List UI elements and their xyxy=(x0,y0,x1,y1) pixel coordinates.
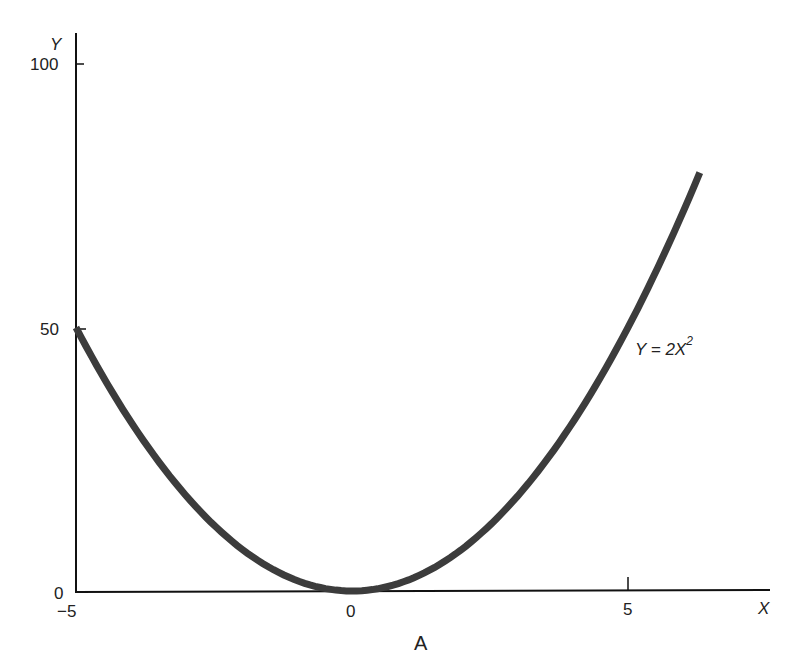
x-tick-label-5: 5 xyxy=(623,601,632,618)
chart-canvas xyxy=(0,0,794,670)
x-tick-label-minus5: −5 xyxy=(57,603,76,620)
y-tick-label-0: 0 xyxy=(54,585,63,602)
panel-label: A xyxy=(414,632,427,655)
y-axis-label: Y xyxy=(50,36,61,53)
x-axis-label: X xyxy=(758,600,769,617)
x-tick-label-0: 0 xyxy=(346,603,355,620)
y-tick-label-100: 100 xyxy=(30,56,58,73)
x-axis xyxy=(75,590,770,592)
y-tick-label-50: 50 xyxy=(40,321,59,338)
curve-annotation-exponent: 2 xyxy=(686,334,693,348)
curve-y-equals-2x-squared xyxy=(76,173,700,591)
curve-annotation-text: Y = 2X xyxy=(635,340,686,359)
curve-annotation: Y = 2X2 xyxy=(635,338,693,358)
